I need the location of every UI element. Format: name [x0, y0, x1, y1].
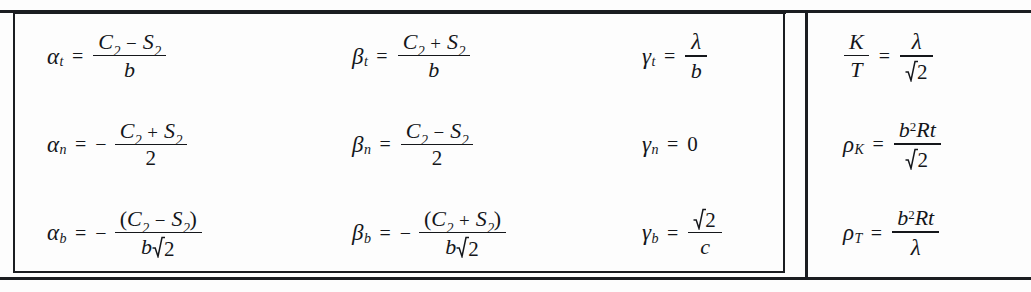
formula-cell-K-over-T: K T = λ 2 — [801, 12, 1031, 100]
symbol-lambda: λ — [691, 30, 701, 53]
fraction-numerator: (C2 + S2) — [419, 208, 506, 232]
fraction-denominator: T — [845, 56, 867, 81]
symbol-b: b — [897, 207, 908, 229]
fraction-denominator: 2 — [900, 57, 934, 82]
fraction-denominator: b — [423, 56, 444, 81]
fraction-numerator: (C2 − S2) — [115, 208, 202, 232]
radical-sqrt-2: 2 — [905, 60, 929, 82]
fraction-numerator: λ — [686, 30, 706, 55]
symbol-beta: β — [352, 45, 363, 68]
subscript-2: 2 — [487, 222, 494, 236]
subscript-2: 2 — [183, 222, 190, 236]
fraction: b2Rt 2 — [894, 119, 941, 170]
equals-sign: = — [376, 46, 387, 66]
formula-gamma-n: γn = 0 — [642, 133, 698, 156]
formula-cell-gamma-n: γn = 0 — [616, 100, 801, 188]
symbol-b: b — [428, 59, 439, 81]
symbol-C: C — [431, 208, 446, 230]
formula-cell-beta-n: βn = C2 − S2 2 — [326, 100, 616, 188]
subscript-n: n — [652, 143, 659, 157]
fraction-numerator: C2 + S2 — [115, 120, 187, 144]
symbol-beta: β — [352, 133, 363, 156]
subscript-n: n — [364, 143, 371, 157]
symbol-b: b — [691, 60, 702, 82]
fraction: C2 − S2 2 — [401, 120, 473, 170]
symbol-b: b — [899, 119, 910, 141]
formula-cell-gamma-b: γb = 2 c — [616, 189, 801, 277]
symbol-S: S — [164, 120, 175, 142]
fraction-denominator: 2 — [141, 145, 162, 169]
fraction: b2Rt λ — [892, 207, 939, 259]
symbol-alpha: α — [47, 133, 59, 156]
superscript-2: 2 — [908, 208, 915, 221]
radicand-2: 2 — [468, 239, 479, 260]
symbol-b: b — [445, 236, 456, 258]
subscript-K: K — [855, 143, 864, 157]
symbol-alpha: α — [47, 45, 59, 68]
subscript-2: 2 — [135, 134, 142, 148]
formula-rho-K: ρK = b2Rt 2 — [843, 119, 942, 170]
fraction-denominator: b — [119, 56, 140, 81]
minus-sign: − — [433, 123, 444, 142]
subscript-2: 2 — [462, 134, 469, 148]
formula-cell-alpha-n: αn = − C2 + S2 2 — [13, 100, 326, 188]
formula-rho-T: ρT = b2Rt λ — [843, 207, 940, 259]
equals-sign: = — [879, 46, 890, 66]
symbol-K: K — [849, 31, 864, 53]
paren-close: ) — [494, 208, 501, 230]
symbol-S: S — [171, 208, 182, 230]
symbol-beta: β — [352, 221, 363, 244]
fraction: C2 + S2 b — [398, 31, 470, 82]
fraction: λ b — [685, 30, 707, 82]
subscript-2: 2 — [176, 134, 183, 148]
symbol-C: C — [127, 208, 142, 230]
formula-cell-alpha-b: αb = − (C2 − S2) b 2 — [13, 189, 326, 277]
formula-cell-rho-T: ρT = b2Rt λ — [801, 189, 1031, 277]
table-bottom-rule — [0, 277, 1031, 280]
formula-cell-alpha-t: αt = C2 − S2 b — [13, 12, 326, 100]
equals-sign: = — [872, 134, 883, 154]
formula-cell-beta-b: βb = − (C2 + S2) b 2 — [326, 189, 616, 277]
fraction-lhs: K T — [844, 31, 869, 82]
subscript-b: b — [364, 232, 371, 246]
subscript-t: t — [652, 55, 656, 69]
fraction-numerator: b2Rt — [892, 207, 939, 231]
fraction-denominator: b 2 — [440, 233, 485, 258]
minus-sign: − — [155, 211, 166, 230]
paren-close: ) — [189, 208, 196, 230]
symbol-lambda: λ — [911, 236, 921, 259]
equals-sign: = — [871, 223, 882, 243]
formula-beta-b: βb = − (C2 + S2) b 2 — [352, 208, 507, 259]
subscript-t: t — [364, 55, 368, 69]
paren-open: ( — [120, 208, 127, 230]
formula-beta-t: βt = C2 + S2 b — [352, 31, 471, 82]
superscript-2: 2 — [910, 120, 917, 133]
equals-sign: = — [664, 46, 675, 66]
symbol-b: b — [124, 59, 135, 81]
subscript-b: b — [652, 232, 659, 246]
subscript-b: b — [60, 232, 67, 246]
symbol-S: S — [447, 31, 458, 53]
symbol-gamma: γ — [642, 133, 651, 156]
plus-sign: + — [459, 211, 470, 230]
formula-grid: αt = C2 − S2 b βt = — [13, 12, 1031, 277]
negation-sign: − — [95, 223, 106, 243]
fraction-denominator: b 2 — [136, 233, 181, 258]
symbol-lambda: λ — [912, 30, 922, 53]
formula-table-page: αt = C2 − S2 b βt = — [0, 0, 1031, 292]
radical-sqrt-2: 2 — [905, 148, 929, 170]
equals-sign: = — [379, 223, 390, 243]
formula-alpha-b: αb = − (C2 − S2) b 2 — [47, 208, 203, 259]
fraction: 2 c — [688, 208, 722, 259]
formula-cell-beta-t: βt = C2 + S2 b — [326, 12, 616, 100]
radical-sqrt-2: 2 — [693, 208, 717, 230]
equals-sign: = — [667, 134, 678, 154]
symbol-C: C — [403, 31, 418, 53]
fraction-denominator: λ — [906, 233, 926, 259]
symbol-C: C — [98, 31, 113, 53]
formula-alpha-n: αn = − C2 + S2 2 — [47, 120, 188, 170]
fraction-numerator: C2 − S2 — [401, 120, 473, 144]
symbol-gamma: γ — [642, 221, 651, 244]
plus-sign: + — [430, 34, 441, 53]
symbol-rho: ρ — [843, 133, 854, 156]
